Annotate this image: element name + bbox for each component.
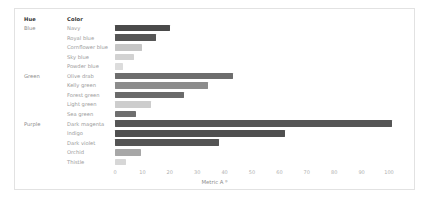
hue-group-label: Green <box>24 73 40 79</box>
x-axis-tick-label: 10 <box>139 169 145 175</box>
color-row-label: Cornflower blue <box>67 44 108 50</box>
color-row-label: Olive drab <box>67 73 94 79</box>
table-row: Cornflower blue <box>15 44 414 54</box>
color-row-label: Sea green <box>67 111 93 117</box>
x-axis-tick-label: 70 <box>304 169 310 175</box>
table-row: PurpleDark magenta <box>15 120 414 130</box>
x-axis-tick-label: 0 <box>113 169 116 175</box>
bar <box>115 120 392 127</box>
x-axis-tick-label: 100 <box>384 169 394 175</box>
color-row-label: Forest green <box>67 92 100 98</box>
bar <box>115 44 142 51</box>
bar-plot-area: BlueNavyRoyal blueCornflower blueSky blu… <box>15 9 414 189</box>
table-row: Sea green <box>15 110 414 120</box>
table-row: Forest green <box>15 91 414 101</box>
x-axis-tick-label: 50 <box>249 169 255 175</box>
table-row: Kelly green <box>15 82 414 92</box>
table-row: GreenOlive drab <box>15 72 414 82</box>
column-header-color: Color <box>67 16 83 22</box>
table-row: BlueNavy <box>15 25 414 35</box>
bar <box>115 139 219 146</box>
bar <box>115 25 170 32</box>
x-axis-tick-label: 40 <box>221 169 227 175</box>
bar <box>115 130 285 137</box>
bar <box>115 92 184 99</box>
x-axis-tick-label: 80 <box>331 169 337 175</box>
x-axis: Metric A ᴮ 0102030405060708090100 <box>15 164 414 191</box>
bar <box>115 82 208 89</box>
x-axis-tick-label: 30 <box>194 169 200 175</box>
color-row-label: Light green <box>67 101 97 107</box>
color-row-label: Sky blue <box>67 54 89 60</box>
bar <box>115 34 156 41</box>
x-axis-title: Metric A ᴮ <box>201 179 227 185</box>
bar <box>115 149 141 156</box>
x-axis-tick-label: 60 <box>276 169 282 175</box>
bar <box>115 111 136 118</box>
table-row: Royal blue <box>15 34 414 44</box>
bar <box>115 54 134 61</box>
color-row-label: Royal blue <box>67 35 94 41</box>
color-row-label: Indigo <box>67 130 83 136</box>
table-row: Powder blue <box>15 63 414 73</box>
bar <box>115 101 151 108</box>
hue-group-label: Purple <box>24 121 40 127</box>
table-row: Dark violet <box>15 139 414 149</box>
bar <box>115 73 233 80</box>
color-row-label: Dark violet <box>67 140 95 146</box>
x-axis-tick-label: 90 <box>358 169 364 175</box>
color-row-label: Dark magenta <box>67 121 104 127</box>
color-row-label: Orchid <box>67 149 84 155</box>
chart-panel: Hue Color BlueNavyRoyal blueCornflower b… <box>14 8 415 190</box>
table-row: Light green <box>15 101 414 111</box>
table-row: Orchid <box>15 149 414 159</box>
color-row-label: Kelly green <box>67 82 96 88</box>
color-row-label: Powder blue <box>67 63 99 69</box>
x-axis-tick-label: 20 <box>167 169 173 175</box>
color-row-label: Navy <box>67 25 80 31</box>
table-row: Sky blue <box>15 53 414 63</box>
hue-group-label: Blue <box>24 25 35 31</box>
bar <box>115 63 123 70</box>
column-header-hue: Hue <box>24 16 36 22</box>
table-row: Indigo <box>15 130 414 140</box>
